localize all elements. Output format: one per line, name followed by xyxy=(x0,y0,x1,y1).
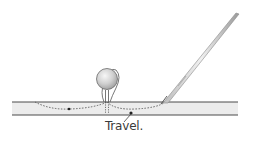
travel-label: Travel. xyxy=(105,119,143,133)
diagram-canvas: Travel. xyxy=(0,0,256,142)
needle-icon xyxy=(161,13,239,104)
thread-dot-left xyxy=(68,108,71,111)
pin-head-icon xyxy=(97,69,118,90)
fabric-layer xyxy=(12,102,238,115)
